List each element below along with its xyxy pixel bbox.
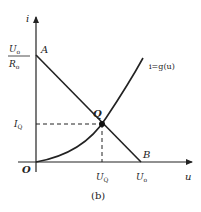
origin-label: O [22, 164, 31, 175]
y-axis-label: i [26, 13, 29, 24]
figure-caption: (b) [91, 190, 105, 201]
point-a-label: A [40, 44, 48, 55]
point-b-label: B [142, 149, 150, 160]
svg-text:Ro: Ro [8, 59, 20, 70]
intercept-numerator-sub: o [17, 48, 21, 55]
x-axis-label: u [185, 171, 191, 182]
point-q-label: Q [93, 108, 102, 119]
intercept-denominator-sub: o [16, 63, 20, 70]
uq-label: UQ [96, 172, 109, 183]
load-line [36, 55, 141, 162]
intercept-fraction-label: Uo Ro [8, 44, 30, 70]
svg-text:Uo: Uo [9, 44, 21, 55]
operating-point-q [99, 121, 105, 127]
curve-label: i=g(u) [149, 62, 175, 71]
iq-label: IQ [13, 119, 23, 130]
uo-label: Uo [136, 172, 148, 183]
operating-point-diagram: i u O A Q B Uo Ro IQ UQ Uo i=g(u) (b) [0, 0, 201, 212]
